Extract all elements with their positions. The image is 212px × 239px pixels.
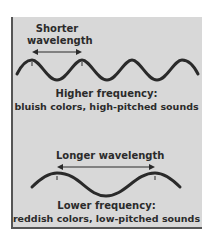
long-wave [32,173,180,196]
high-frequency-caption: Higher frequency: bluish colors, high-pi… [11,88,202,113]
low-frequency-caption: Lower frequency: reddish colors, low-pit… [11,200,202,225]
short-wave [17,60,198,80]
high-caption-line1: Higher frequency: [11,88,202,101]
low-caption-line1: Lower frequency: [11,200,202,213]
long-wavelength-label: Longer wavelength [56,150,156,162]
high-caption-line2: bluish colors, high-pitched sounds [11,101,202,114]
short-wavelength-label: Shorter wavelength [27,23,87,47]
low-caption-line2: reddish colors, low-pitched sounds [11,213,202,226]
short-label-line1: Shorter [27,23,87,35]
short-label-line2: wavelength [27,35,87,47]
